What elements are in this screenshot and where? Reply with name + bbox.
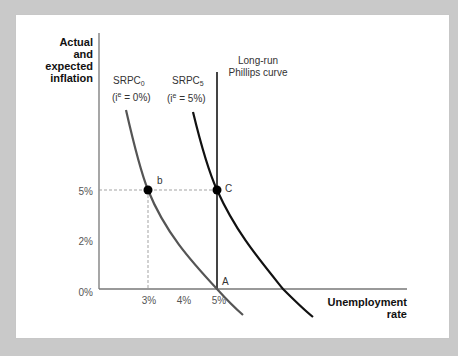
point-b-label: b [157, 175, 163, 186]
x-tick-3: 3% [142, 295, 157, 306]
point-a-label: A [222, 276, 229, 287]
lrpc-label-line-1: Long-run [238, 55, 278, 66]
x-axis-label-line-2: rate [387, 308, 407, 320]
point-b-marker [144, 186, 153, 195]
y-axis-label-line-1: Actual [59, 36, 93, 48]
y-tick-2: 2% [79, 236, 94, 247]
y-axis-label-line-3: expected [45, 60, 93, 72]
srpc5-expectation-note: (ie = 5%) [167, 92, 206, 104]
phillips-curve-chart: Actual and expected inflation 5% 2% 0% 3… [0, 0, 458, 356]
srpc0-label: SRPC0 [113, 75, 145, 87]
srpc5-label: SRPC5 [172, 75, 204, 87]
x-axis-label-line-1: Unemployment [328, 296, 408, 308]
srpc5-curve [193, 112, 313, 317]
y-axis-label-line-4: inflation [50, 72, 93, 84]
point-c-marker [213, 186, 222, 195]
srpc0-expectation-note: (ie = 0%) [112, 91, 151, 103]
y-tick-0: 0% [79, 287, 94, 298]
point-c-label: C [225, 183, 232, 194]
lrpc-label-line-2: Phillips curve [229, 67, 288, 78]
x-tick-4: 4% [177, 295, 192, 306]
y-axis-label-line-2: and [73, 48, 93, 60]
y-tick-5: 5% [79, 186, 94, 197]
